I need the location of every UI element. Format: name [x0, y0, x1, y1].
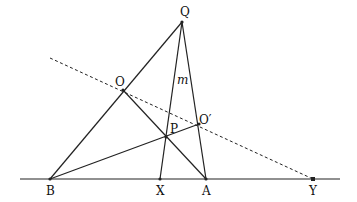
line-m-QX [160, 22, 182, 179]
point-Q [180, 20, 183, 23]
label-Y: Y [308, 184, 318, 198]
label-A: A [201, 184, 211, 198]
label-B: B [46, 184, 55, 198]
point-B [48, 177, 51, 180]
label-Q: Q [180, 5, 190, 19]
label-line-m: m [177, 73, 188, 87]
label-P: P [170, 122, 178, 136]
segment-OA [123, 90, 206, 179]
segment-QA [182, 22, 206, 179]
geometry-diagram: Q O P O′ B X A Y m [0, 0, 357, 202]
point-P [164, 135, 167, 138]
label-O-prime: O′ [199, 113, 212, 127]
label-X: X [156, 184, 165, 198]
point-X [158, 177, 161, 180]
segment-BQ [50, 22, 182, 179]
label-O: O [115, 75, 125, 89]
point-Y [311, 177, 315, 181]
point-A [204, 177, 207, 180]
